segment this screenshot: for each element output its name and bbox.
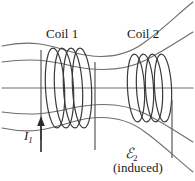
up-arrow-icon — [37, 116, 45, 152]
coil-1-label: Coil 1 — [46, 26, 78, 42]
coil-2-label: Coil 2 — [127, 26, 159, 42]
current-label: I1 — [24, 128, 33, 145]
induced-caption: (induced) — [113, 160, 163, 176]
mutual-inductance-figure: Coil 1 Coil 2 I1 ℰ2 (induced) — [0, 0, 195, 181]
diagram-canvas — [0, 0, 195, 181]
magnetic-field-lines-icon — [2, 2, 193, 172]
emf-symbol: ℰ — [125, 146, 133, 161]
current-subscript: 1 — [28, 135, 33, 145]
